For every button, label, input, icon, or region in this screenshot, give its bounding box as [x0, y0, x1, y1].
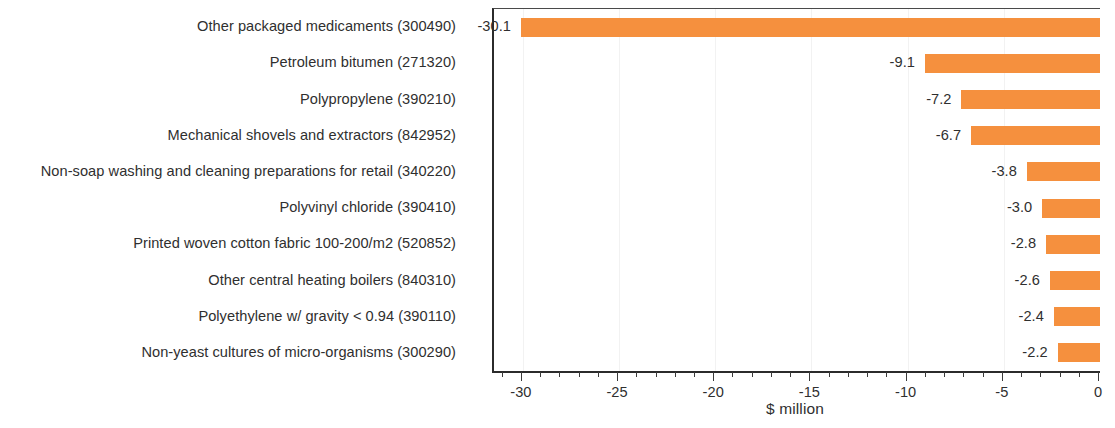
bar-value-label: -6.7 — [913, 127, 961, 143]
bar-value-label: -3.0 — [984, 199, 1032, 215]
x-tick-minor — [944, 372, 945, 377]
x-tick-minor — [886, 372, 887, 377]
category-label: Polyethylene w/ gravity < 0.94 (390110) — [0, 308, 456, 324]
category-label: Polyvinyl chloride (390410) — [0, 199, 456, 215]
x-tick-label: -20 — [703, 384, 724, 400]
x-tick-minor — [829, 372, 830, 377]
x-tick-label: -30 — [510, 384, 531, 400]
bar — [925, 54, 1100, 73]
bar — [1046, 235, 1100, 254]
category-label: Polypropylene (390210) — [0, 91, 456, 107]
x-tick-major — [906, 372, 907, 381]
category-label: Mechanical shovels and extractors (84295… — [0, 127, 456, 143]
bar-value-label: -3.8 — [969, 163, 1017, 179]
x-tick-minor — [963, 372, 964, 377]
bar-value-label: -30.1 — [463, 18, 511, 34]
category-axis-labels: Other packaged medicaments (300490)Petro… — [0, 8, 456, 370]
bar — [971, 126, 1100, 145]
x-tick-minor — [790, 372, 791, 377]
category-label: Other packaged medicaments (300490) — [0, 18, 456, 34]
x-tick-label: -10 — [895, 384, 916, 400]
x-tick-major — [617, 372, 618, 381]
bar-value-label: -9.1 — [867, 54, 915, 70]
category-label: Printed woven cotton fabric 100-200/m2 (… — [0, 235, 456, 251]
bar — [1050, 271, 1100, 290]
category-label: Other central heating boilers (840310) — [0, 272, 456, 288]
x-tick-minor — [559, 372, 560, 377]
bar — [1054, 307, 1100, 326]
category-label: Non-soap washing and cleaning preparatio… — [0, 163, 456, 179]
x-tick-major — [1098, 372, 1099, 381]
x-tick-minor — [1060, 372, 1061, 377]
x-tick-major — [809, 372, 810, 381]
x-tick-minor — [502, 372, 503, 377]
x-tick-major — [713, 372, 714, 381]
x-tick-minor — [848, 372, 849, 377]
x-tick-minor — [983, 372, 984, 377]
bar — [521, 18, 1100, 37]
bar — [961, 90, 1100, 109]
category-label: Non-yeast cultures of micro-organisms (3… — [0, 344, 456, 360]
x-tick-minor — [925, 372, 926, 377]
x-tick-minor — [579, 372, 580, 377]
x-tick-label: 0 — [1094, 384, 1102, 400]
x-tick-minor — [752, 372, 753, 377]
x-tick-minor — [732, 372, 733, 377]
x-tick-major — [521, 372, 522, 381]
x-tick-major — [1002, 372, 1003, 381]
bar — [1042, 199, 1100, 218]
bar-value-label: -2.6 — [992, 272, 1040, 288]
category-label: Petroleum bitumen (271320) — [0, 54, 456, 70]
x-tick-label: -15 — [799, 384, 820, 400]
bar-value-label: -2.4 — [996, 308, 1044, 324]
x-tick-minor — [540, 372, 541, 377]
x-tick-minor — [867, 372, 868, 377]
x-tick-minor — [694, 372, 695, 377]
x-tick-label: -5 — [995, 384, 1008, 400]
x-tick-minor — [1021, 372, 1022, 377]
x-tick-minor — [675, 372, 676, 377]
bar-value-label: -2.8 — [988, 235, 1036, 251]
x-tick-minor — [656, 372, 657, 377]
bar-value-label: -7.2 — [903, 91, 951, 107]
bar — [1027, 162, 1100, 181]
x-tick-minor — [1079, 372, 1080, 377]
x-tick-minor — [636, 372, 637, 377]
bar-chart-figure: Other packaged medicaments (300490)Petro… — [0, 0, 1115, 428]
x-tick-label: -25 — [606, 384, 627, 400]
x-tick-minor — [1040, 372, 1041, 377]
x-axis-title: $ million — [492, 400, 1098, 418]
bar-value-label: -2.2 — [1000, 344, 1048, 360]
x-tick-minor — [598, 372, 599, 377]
bar — [1058, 343, 1100, 362]
x-tick-minor — [771, 372, 772, 377]
